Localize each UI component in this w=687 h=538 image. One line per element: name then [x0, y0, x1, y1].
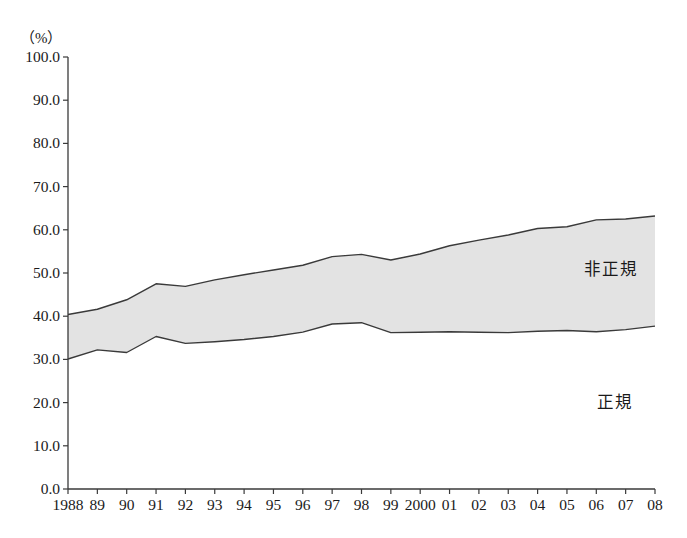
- area-chart: （%） 0.010.020.030.040.050.060.070.080.09…: [0, 0, 687, 538]
- band-fill-hiseiki: [68, 216, 655, 359]
- y-axis-ticks: [63, 57, 68, 489]
- series-label-hiseiki: 非正規: [584, 262, 638, 279]
- series-label-seiki: 正規: [597, 395, 633, 412]
- x-axis-ticks: [68, 489, 655, 494]
